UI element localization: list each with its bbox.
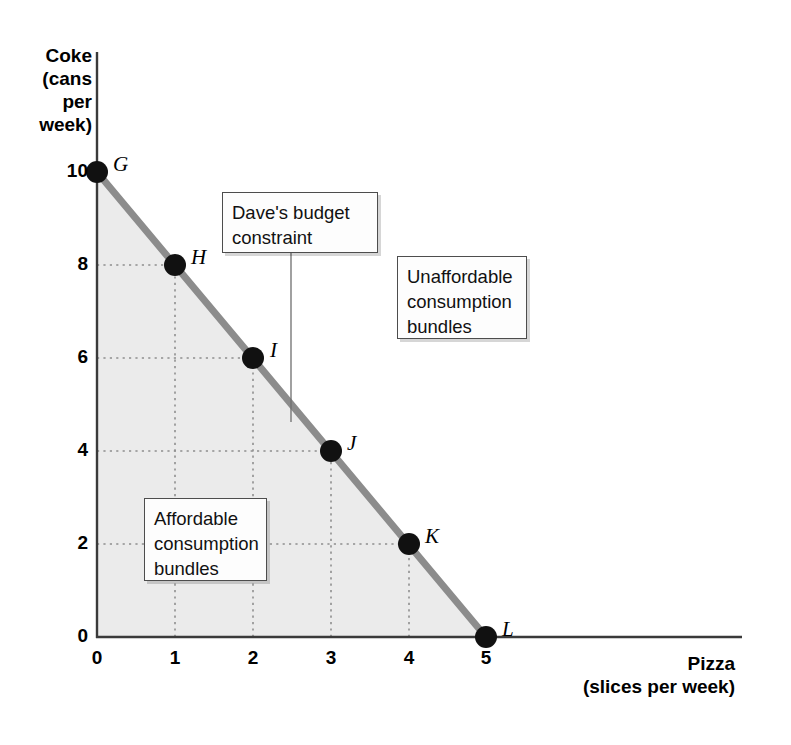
data-point-j — [320, 440, 342, 462]
x-tick-label-4: 4 — [394, 647, 424, 669]
callout-affordable-bundles: Affordable consumption bundles — [144, 498, 267, 581]
point-label-h: H — [191, 245, 206, 270]
point-label-l: L — [502, 617, 514, 642]
callout-unaffordable-bundles: Unaffordable consumption bundles — [397, 256, 527, 339]
point-label-g: G — [113, 152, 128, 177]
y-tick-label-0: 0 — [48, 625, 88, 647]
y-tick-label-10: 10 — [48, 160, 88, 182]
point-label-i: I — [270, 338, 277, 363]
chart-canvas — [0, 0, 791, 745]
y-tick-label-2: 2 — [48, 532, 88, 554]
data-point-i — [242, 347, 264, 369]
y-tick-label-4: 4 — [48, 439, 88, 461]
x-axis-title: Pizza (slices per week) — [470, 652, 735, 698]
callout-budget-constraint: Dave's budget constraint — [222, 192, 378, 253]
x-tick-label-3: 3 — [316, 647, 346, 669]
x-tick-label-5: 5 — [471, 647, 501, 669]
x-tick-label-0: 0 — [82, 647, 112, 669]
data-point-g — [86, 161, 108, 183]
y-tick-label-6: 6 — [48, 346, 88, 368]
y-tick-label-8: 8 — [48, 253, 88, 275]
x-tick-label-2: 2 — [238, 647, 268, 669]
data-point-k — [398, 533, 420, 555]
x-tick-label-1: 1 — [160, 647, 190, 669]
y-axis-title: Coke (cans per week) — [14, 44, 92, 136]
data-point-l — [475, 626, 497, 648]
point-label-j: J — [347, 431, 356, 456]
point-label-k: K — [425, 524, 439, 549]
data-point-h — [164, 254, 186, 276]
budget-constraint-chart: Coke (cans per week) Pizza (slices per w… — [0, 0, 791, 745]
